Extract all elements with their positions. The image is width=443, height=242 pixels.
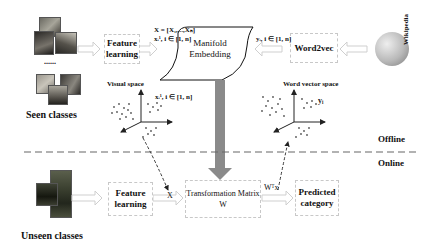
y-i-word-label: yᵢ xyxy=(318,96,323,105)
online-label: Online xyxy=(378,158,404,168)
x-set-label: X = [X₁,...,Xₙ] xyxy=(154,26,195,34)
dashed-arrow-wtx-to-word xyxy=(278,142,288,190)
transformation-matrix-label: Transformation Matrix W xyxy=(186,188,260,210)
word2vec-label: Word2vec xyxy=(295,43,334,54)
wikipedia-label: Wikipedia xyxy=(402,14,410,45)
word2vec-box: Word2vec xyxy=(290,33,338,63)
wtx-label: Wᵀx xyxy=(264,183,278,192)
predicted-category-box: Predicted category xyxy=(295,180,339,216)
y-i-top-label: yᵢ, i ∈ [1, n] xyxy=(256,35,291,43)
word-space-points xyxy=(261,96,317,138)
thick-down-arrow xyxy=(208,80,232,180)
feature-learning-top-box: Feature learning xyxy=(104,34,140,64)
feature-learning-bottom-label: Feature learning xyxy=(109,188,152,210)
x-i-top-label: xᵢ¹, i ∈ [1, n] xyxy=(154,35,191,43)
word-vector-space-label: Word vector space xyxy=(283,80,338,88)
x-i-visual-label: xᵢ¹, i ∈ [1, n] xyxy=(155,93,192,101)
feature-learning-top-label: Feature learning xyxy=(105,38,139,60)
feature-learning-bottom-box: Feature learning xyxy=(108,182,153,216)
visual-space-label: Visual space xyxy=(107,80,144,88)
transformation-matrix-box: Transformation Matrix W xyxy=(185,180,261,218)
predicted-category-label: Predicted category xyxy=(296,187,338,209)
visual-space-points xyxy=(111,102,162,138)
x-online-label: X xyxy=(167,191,173,200)
offline-label: Offline xyxy=(378,134,405,144)
